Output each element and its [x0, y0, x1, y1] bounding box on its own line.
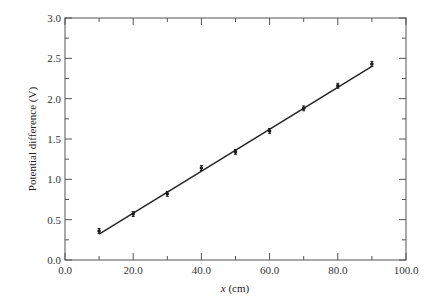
y-axis-title: Potential difference (V) [26, 87, 39, 192]
point-marker [370, 62, 374, 66]
y-tick-label: 1.0 [47, 173, 61, 185]
data-point [370, 62, 374, 67]
y-tick-label: 0.0 [47, 254, 61, 266]
point-marker [166, 192, 170, 196]
y-tick-label: 2.0 [47, 93, 61, 105]
data-point [302, 106, 306, 111]
data-points [97, 62, 373, 234]
y-tick-label: 1.5 [47, 133, 61, 145]
point-marker [336, 84, 340, 88]
point-marker [302, 107, 306, 111]
point-marker [97, 229, 101, 233]
chart: 0.020.040.060.080.0100.00.00.51.01.52.02… [0, 0, 431, 305]
x-axis-unit: (cm) [226, 282, 250, 295]
point-marker [268, 129, 272, 133]
x-axis-title: x (cm) [220, 282, 250, 295]
y-tick-label: 2.5 [47, 52, 61, 64]
point-marker [200, 166, 204, 170]
point-marker [131, 212, 135, 216]
x-tick-label: 20.0 [124, 264, 144, 276]
plot-axes: 0.020.040.060.080.0100.00.00.51.01.52.02… [47, 12, 419, 276]
point-marker [234, 150, 238, 154]
x-tick-label: 100.0 [394, 264, 419, 276]
x-tick-label: 60.0 [260, 264, 280, 276]
x-tick-label: 80.0 [328, 264, 348, 276]
x-tick-label: 40.0 [192, 264, 212, 276]
y-tick-label: 0.5 [47, 214, 61, 226]
y-tick-label: 3.0 [47, 12, 61, 24]
